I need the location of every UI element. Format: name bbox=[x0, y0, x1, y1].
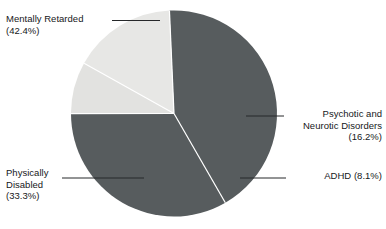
pie-chart: Mentally Retarded (42.4%) Physically Dis… bbox=[0, 0, 386, 229]
pie-label-psychotic-neurotic: Psychotic and Neurotic Disorders (16.2%) bbox=[270, 108, 382, 143]
pie-label-mentally-retarded: Mentally Retarded (42.4%) bbox=[6, 13, 110, 36]
pie-label-adhd: ADHD (8.1%) bbox=[270, 170, 382, 182]
pie-label-physically-disabled: Physically Disabled (33.3%) bbox=[6, 167, 98, 202]
